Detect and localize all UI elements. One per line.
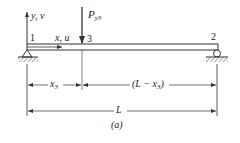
node-1-label: 1: [30, 33, 35, 43]
x-axis-label: x, u: [55, 33, 69, 43]
dimension-x3-label: x3: [50, 79, 58, 91]
pin-support-icon: [18, 50, 38, 62]
roller-support-icon: [206, 50, 228, 62]
node-3-label: 3: [87, 34, 92, 44]
x3-subscript: 3: [54, 83, 58, 91]
load-subscript: y3: [95, 14, 102, 22]
point-load-arrow: [79, 7, 85, 44]
load-label: Py3: [88, 9, 101, 22]
lx3-prefix: (L − x: [132, 78, 157, 89]
beam-diagram: y, v Py3 1 x, u 3 2 x3 (L − x3) L (a): [0, 0, 240, 143]
y-axis-label: y, v: [31, 11, 44, 21]
load-symbol: P: [88, 8, 95, 20]
lx3-suffix: ): [160, 78, 163, 89]
dimension-l-minus-x3-label: (L − x3): [132, 79, 164, 91]
node-2-label: 2: [211, 32, 216, 42]
dimension-l-label: L: [116, 105, 122, 115]
figure-caption: (a): [111, 120, 123, 130]
